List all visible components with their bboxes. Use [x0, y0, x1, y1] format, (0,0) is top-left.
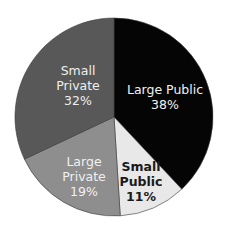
label-small-public-line1: Small: [121, 159, 160, 174]
label-small-private-line1: Small: [61, 63, 96, 78]
label-small-public-line2: Public: [120, 174, 163, 189]
pie-slices: [15, 18, 213, 216]
label-small-public-value: 11%: [126, 189, 156, 204]
label-large-public-line1: Large Public: [127, 82, 203, 97]
label-large-private-line2: Private: [62, 169, 106, 184]
label-small-private-value: 32%: [64, 93, 92, 108]
pie-chart: Large Public 38% Small Public 11% Large …: [0, 0, 225, 229]
label-large-public-value: 38%: [151, 97, 179, 112]
label-small-private-line2: Private: [56, 78, 100, 93]
label-large-private-line1: Large: [66, 154, 101, 169]
label-large-private-value: 19%: [70, 184, 98, 199]
